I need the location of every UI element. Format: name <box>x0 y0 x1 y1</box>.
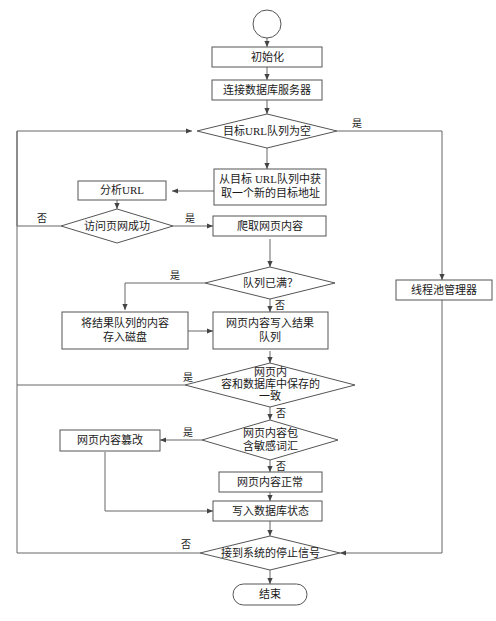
node-start[interactable] <box>253 10 281 38</box>
flowchart-canvas: 初始化 连接数据库服务器 目标URL队列为空 从目标 URL队列中获 取一个新的… <box>0 0 496 621</box>
edge-label-visit-ok-yes: 是 <box>185 213 195 224</box>
edge-label-queue-full-yes: 是 <box>170 270 180 281</box>
node-save-to-disk-line2: 存入磁盘 <box>103 330 147 343</box>
edge-visit-ok-no-loop <box>17 131 192 226</box>
node-content-tampered-label: 网页内容篡改 <box>77 433 143 446</box>
node-url-queue-empty[interactable]: 目标URL队列为空 <box>197 114 337 148</box>
node-end-label: 结束 <box>259 588 281 600</box>
node-thread-pool-manager[interactable]: 线程池管理器 <box>396 280 492 300</box>
node-has-sensitive-words[interactable]: 网页内容包 含敏感词汇 <box>202 420 338 460</box>
node-connect-db[interactable]: 连接数据库服务器 <box>212 80 322 100</box>
node-queue-full[interactable]: 队列已满？ <box>205 267 335 299</box>
node-content-match-db-line3: 一致 <box>259 389 281 402</box>
node-content-normal-label: 网页内容正常 <box>237 475 303 488</box>
edge-label-content-match-yes: 是 <box>183 372 193 383</box>
edge-label-sensitive-yes: 是 <box>183 427 193 438</box>
edge-queue-full-yes-to-save-to-disk <box>125 283 205 310</box>
node-has-sensitive-words-line1: 网页内容包 <box>243 426 298 439</box>
node-save-to-disk-line1: 将结果队列的内容 <box>81 316 169 329</box>
node-init-label: 初始化 <box>251 50 284 63</box>
node-content-match-db-line2: 容和数据库中保存的 <box>221 377 320 390</box>
node-write-db-status[interactable]: 写入数据库状态 <box>213 501 322 521</box>
node-get-new-url[interactable]: 从目标 URL队列中获 取一个新的目标地址 <box>214 169 326 205</box>
node-content-tampered[interactable]: 网页内容篡改 <box>60 430 160 451</box>
node-queue-full-label: 队列已满？ <box>243 276 298 289</box>
node-visit-ok-label: 访问页网成功 <box>84 220 150 232</box>
node-init[interactable]: 初始化 <box>212 47 322 67</box>
node-parse-url-label: 分析URL <box>100 183 144 196</box>
node-content-normal[interactable]: 网页内容正常 <box>219 472 322 492</box>
node-end[interactable]: 结束 <box>233 584 307 605</box>
node-stop-signal[interactable]: 接到系统的停止信号 <box>200 536 340 570</box>
node-get-new-url-line2: 取一个新的目标地址 <box>221 186 320 199</box>
flowchart-svg: 初始化 连接数据库服务器 目标URL队列为空 从目标 URL队列中获 取一个新的… <box>0 0 496 621</box>
node-url-queue-empty-label: 目标URL队列为空 <box>223 124 311 137</box>
edge-label-content-match-no: 否 <box>276 408 286 419</box>
node-crawl-page[interactable]: 爬取网页内容 <box>213 216 326 236</box>
node-visit-ok[interactable]: 访问页网成功 <box>61 209 173 243</box>
node-write-db-status-label: 写入数据库状态 <box>232 504 309 517</box>
edge-label-url-queue-empty-yes: 是 <box>352 118 362 129</box>
edge-url-queue-empty-yes-to-thread-pool <box>337 131 442 280</box>
edge-label-visit-ok-no: 否 <box>37 213 47 224</box>
node-get-new-url-line1: 从目标 URL队列中获 <box>219 172 321 185</box>
node-thread-pool-manager-label: 线程池管理器 <box>411 283 477 296</box>
edge-thread-pool-to-stop-signal <box>340 300 442 553</box>
node-content-match-db[interactable]: 网页内 容和数据库中保存的 一致 <box>185 363 355 407</box>
edge-label-stop-signal-no: 否 <box>181 539 191 550</box>
node-write-result-queue-line2: 队列 <box>259 330 281 343</box>
node-parse-url[interactable]: 分析URL <box>78 181 166 200</box>
edge-label-sensitive-no: 否 <box>276 461 286 472</box>
node-write-result-queue-line1: 网页内容写入结果 <box>226 316 314 329</box>
node-stop-signal-label: 接到系统的停止信号 <box>221 546 320 559</box>
node-content-match-db-line1: 网页内 <box>254 365 287 378</box>
node-connect-db-label: 连接数据库服务器 <box>223 83 311 96</box>
node-write-result-queue[interactable]: 网页内容写入结果 队列 <box>213 312 328 349</box>
edge-label-queue-full-no: 否 <box>275 300 285 311</box>
edge-tampered-to-write-db-status <box>105 452 213 511</box>
node-crawl-page-label: 爬取网页内容 <box>237 219 303 232</box>
node-has-sensitive-words-line2: 含敏感词汇 <box>243 439 298 452</box>
node-save-to-disk[interactable]: 将结果队列的内容 存入磁盘 <box>62 312 188 349</box>
